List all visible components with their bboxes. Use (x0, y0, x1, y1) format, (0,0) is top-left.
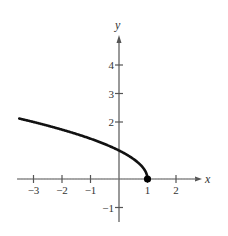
x-tick-label: −2 (56, 184, 68, 196)
y-tick-label: 2 (109, 116, 115, 128)
function-curve (19, 119, 147, 179)
x-tick-label: 2 (173, 184, 179, 196)
y-tick-label: 3 (109, 88, 115, 100)
x-tick-label: 1 (145, 184, 151, 196)
graph: −3−2−112−1234 x y (0, 0, 228, 236)
tick-labels: −3−2−112−1234 (28, 59, 179, 214)
tick-marks (19, 65, 196, 208)
x-axis-arrow-icon (195, 177, 202, 182)
endpoint-dot (144, 175, 151, 182)
x-tick-label: −1 (85, 184, 97, 196)
y-tick-label: 4 (109, 59, 115, 71)
x-axis-label: x (204, 172, 211, 186)
x-tick-label: −3 (28, 184, 40, 196)
y-axis-arrow-icon (117, 35, 122, 43)
y-tick-label: −1 (102, 202, 114, 214)
y-axis-label: y (114, 18, 121, 32)
